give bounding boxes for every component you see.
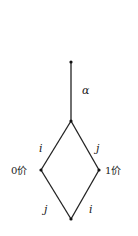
lattice-diagram: α i j j i 0价 1价 bbox=[0, 0, 138, 236]
node-left bbox=[39, 168, 42, 171]
node-upper bbox=[69, 119, 72, 122]
edge-upper-left bbox=[41, 121, 71, 170]
edge-lower-right bbox=[71, 170, 99, 219]
node-bottom bbox=[69, 217, 72, 220]
label-lower-left: j bbox=[41, 203, 48, 216]
node-right bbox=[97, 168, 100, 171]
label-alpha: α bbox=[82, 84, 90, 97]
label-upper-right: j bbox=[93, 142, 100, 155]
label-right-node: 1价 bbox=[105, 165, 121, 176]
node-top bbox=[69, 60, 72, 63]
label-upper-left: i bbox=[39, 142, 43, 155]
edge-upper-right bbox=[71, 121, 99, 170]
label-left-node: 0价 bbox=[11, 165, 27, 176]
label-lower-right: i bbox=[89, 203, 93, 216]
